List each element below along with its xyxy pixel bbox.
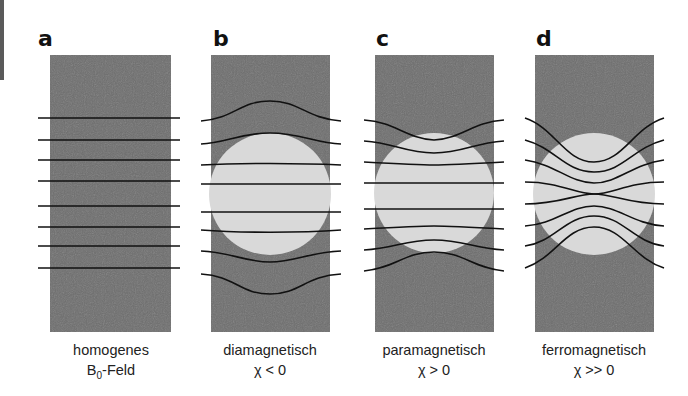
caption-b-line1: diamagnetisch xyxy=(185,340,355,360)
panel-label-b: b xyxy=(213,28,229,50)
caption-a-line2: B0-Feld xyxy=(26,360,196,386)
caption-d-line2: χ >> 0 xyxy=(509,360,679,380)
panel-a-homogeneous xyxy=(38,55,180,332)
panel-label-c: c xyxy=(376,28,389,50)
caption-b-line2: χ < 0 xyxy=(185,360,355,380)
caption-a-line1: homogenes xyxy=(26,340,196,360)
panel-d-ferromagnetic xyxy=(525,55,664,332)
sample-sphere xyxy=(374,133,494,253)
caption-c-line2: χ > 0 xyxy=(349,360,519,380)
field-diagram xyxy=(0,0,688,396)
caption-c: paramagnetisch χ > 0 xyxy=(349,340,519,380)
medium-rect xyxy=(50,55,171,332)
panel-label-a: a xyxy=(38,28,53,50)
panel-c-paramagnetic xyxy=(364,55,504,332)
caption-b: diamagnetisch χ < 0 xyxy=(185,340,355,380)
caption-d: ferromagnetisch χ >> 0 xyxy=(509,340,679,380)
feld-text: -Feld xyxy=(102,362,135,378)
sample-sphere xyxy=(209,133,331,255)
caption-a: homogenes B0-Feld xyxy=(26,340,196,386)
caption-c-line1: paramagnetisch xyxy=(349,340,519,360)
b-symbol: B xyxy=(87,362,97,378)
panel-label-d: d xyxy=(536,28,552,50)
panel-b-diamagnetic xyxy=(201,55,341,332)
caption-d-line1: ferromagnetisch xyxy=(509,340,679,360)
